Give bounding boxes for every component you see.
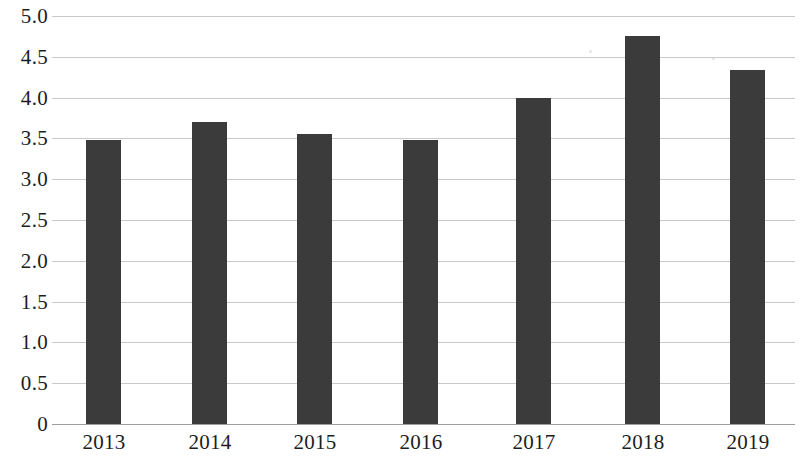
bar-2015 [297, 134, 332, 424]
y-tick-label: 3.0 [4, 169, 48, 190]
bar-chart: 5.0 4.5 4.0 3.5 3.0 2.5 2.0 1.5 1.0 0.5 … [0, 0, 803, 459]
bar-2019 [730, 70, 765, 424]
y-tick-label: 0.5 [4, 373, 48, 394]
x-tick-label-2016: 2016 [376, 428, 466, 456]
bar-2018 [625, 36, 660, 424]
bar-series [52, 16, 795, 424]
bar-2014 [192, 122, 227, 424]
bar-2016 [403, 140, 438, 424]
x-tick-label-2015: 2015 [270, 428, 360, 456]
axis-baseline [52, 424, 795, 425]
x-tick-label-2018: 2018 [598, 428, 688, 456]
y-tick-label: 2.5 [4, 210, 48, 231]
y-tick-label: 4.5 [4, 47, 48, 68]
x-axis: 2013 2014 2015 2016 2017 2018 2019 [52, 428, 795, 459]
y-tick-label: 0 [4, 414, 48, 435]
x-tick-label-2017: 2017 [489, 428, 579, 456]
x-tick-label-2019: 2019 [703, 428, 793, 456]
x-tick-label-2013: 2013 [59, 428, 149, 456]
y-tick-label: 4.0 [4, 88, 48, 109]
y-tick-label: 5.0 [4, 6, 48, 27]
y-tick-label: 3.5 [4, 128, 48, 149]
y-axis: 5.0 4.5 4.0 3.5 3.0 2.5 2.0 1.5 1.0 0.5 … [0, 0, 48, 459]
bar-2013 [86, 140, 121, 424]
x-tick-label-2014: 2014 [165, 428, 255, 456]
bar-2017 [516, 98, 551, 424]
y-tick-label: 1.0 [4, 332, 48, 353]
y-tick-label: 1.5 [4, 292, 48, 313]
y-tick-label: 2.0 [4, 251, 48, 272]
